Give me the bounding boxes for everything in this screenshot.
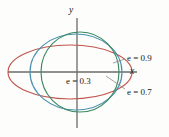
label-eccentricity-07: e = 0.7: [127, 88, 152, 97]
eccentricity-ellipses-figure: y x e = 0.9 e = 0.7 e = 0.3: [0, 0, 169, 137]
leader-line-e09: [113, 59, 125, 63]
leader-line-e07: [106, 76, 125, 89]
plot-canvas: [0, 0, 169, 137]
x-axis-label: x: [130, 67, 134, 77]
label-eccentricity-09: e = 0.9: [127, 54, 152, 63]
label-eccentricity-03: e = 0.3: [66, 77, 91, 86]
y-axis-label: y: [69, 6, 73, 16]
